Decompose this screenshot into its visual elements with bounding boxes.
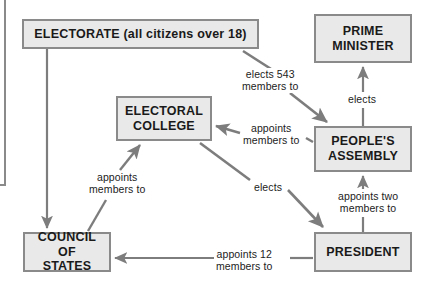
cropped-frame-artifact bbox=[0, 0, 6, 186]
node-peoples-assembly-label: PEOPLE'S ASSEMBLY bbox=[324, 134, 402, 164]
node-prime-minister[interactable]: PRIME MINISTER bbox=[314, 14, 412, 63]
node-peoples-assembly[interactable]: PEOPLE'S ASSEMBLY bbox=[314, 126, 412, 172]
node-council-of-states[interactable]: COUNCIL OF STATES bbox=[23, 232, 111, 272]
node-prime-minister-label: PRIME MINISTER bbox=[328, 24, 397, 54]
government-structure-diagram: ELECTORATE (all citizens over 18) PRIME … bbox=[0, 0, 429, 290]
edge-label-appoints-two-members-to: appoints two members to bbox=[338, 190, 398, 215]
node-electoral-college-label: ELECTORAL COLLEGE bbox=[121, 104, 207, 134]
node-president[interactable]: PRESIDENT bbox=[314, 232, 412, 272]
node-electoral-college[interactable]: ELECTORAL COLLEGE bbox=[116, 96, 212, 141]
edge-label-elects-president: elects bbox=[254, 181, 282, 193]
node-council-of-states-label: COUNCIL OF STATES bbox=[25, 230, 109, 274]
edge-label-elects-543-members-to: elects 543 members to bbox=[242, 68, 298, 93]
edge-label-elects-prime-minister: elects bbox=[348, 93, 376, 105]
node-electorate[interactable]: ELECTORATE (all citizens over 18) bbox=[22, 19, 259, 49]
edge-label-appoints-members-to-from-council: appoints members to bbox=[89, 171, 145, 196]
edge-label-appoints-12-members-to: appoints 12 members to bbox=[216, 248, 272, 273]
node-president-label: PRESIDENT bbox=[322, 245, 403, 260]
edge-label-appoints-members-to-electoral-college: appoints members to bbox=[243, 122, 299, 147]
node-electorate-label: ELECTORATE (all citizens over 18) bbox=[30, 27, 250, 42]
